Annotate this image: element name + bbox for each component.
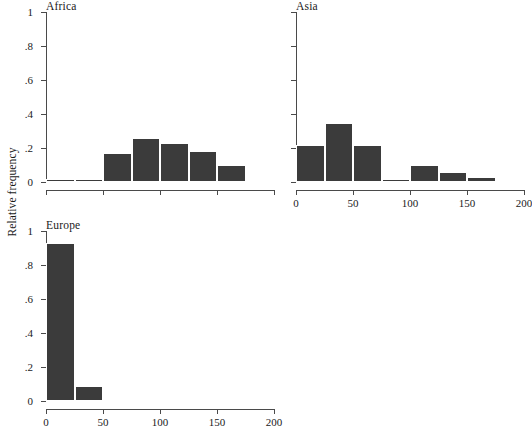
panel-title-africa: Africa xyxy=(46,0,77,12)
bar-asia-4 xyxy=(410,165,439,182)
y-tick-label-africa-0: 0 xyxy=(28,177,34,188)
plot-area-africa: 0.2.4.6.81 xyxy=(46,12,274,182)
plot-area-asia: 050100150200 xyxy=(296,12,524,182)
bar-africa-1 xyxy=(75,179,104,182)
x-tick-asia-2: 100 xyxy=(410,190,411,195)
x-tick-label-europe-3: 150 xyxy=(209,417,226,428)
y-tick-label-africa-2: .4 xyxy=(25,109,33,120)
x-tick-label-asia-3: 150 xyxy=(459,198,476,209)
y-tick-label-europe-1: .2 xyxy=(25,362,33,373)
x-tick-label-europe-1: 50 xyxy=(98,417,109,428)
bar-asia-6 xyxy=(467,177,496,182)
y-tick-asia-3 xyxy=(291,80,296,81)
x-tick-label-asia-1: 50 xyxy=(348,198,359,209)
bar-europe-1 xyxy=(75,386,104,401)
y-tick-label-africa-4: .8 xyxy=(25,41,33,52)
x-tick-africa-4 xyxy=(274,190,275,195)
y-axis-africa xyxy=(46,12,47,182)
y-tick-label-europe-0: 0 xyxy=(28,396,34,407)
y-tick-label-africa-5: 1 xyxy=(28,7,34,18)
bar-africa-2 xyxy=(103,153,132,182)
x-tick-africa-0 xyxy=(46,190,47,195)
y-tick-europe-0: 0 xyxy=(41,401,46,402)
bar-asia-0 xyxy=(296,145,325,182)
x-tick-label-asia-4: 200 xyxy=(516,198,532,209)
bar-africa-3 xyxy=(132,138,161,182)
panel-asia: Asia 050100150200 xyxy=(296,12,524,182)
x-tick-asia-3: 150 xyxy=(467,190,468,195)
bar-africa-0 xyxy=(46,179,75,182)
panel-title-europe: Europe xyxy=(46,219,80,231)
bar-asia-1 xyxy=(325,123,354,183)
y-tick-africa-0: 0 xyxy=(41,182,46,183)
panel-europe: Europe 0.2.4.6.81050100150200 xyxy=(46,231,274,401)
y-tick-asia-4 xyxy=(291,46,296,47)
bar-africa-4 xyxy=(160,143,189,182)
x-tick-label-asia-0: 0 xyxy=(293,198,299,209)
x-tick-asia-1: 50 xyxy=(353,190,354,195)
bar-europe-0 xyxy=(46,243,75,401)
panel-title-asia: Asia xyxy=(296,0,318,12)
bar-asia-3 xyxy=(382,179,411,182)
y-tick-africa-2: .4 xyxy=(41,114,46,115)
x-tick-europe-1: 50 xyxy=(103,409,104,414)
y-tick-label-europe-5: 1 xyxy=(28,226,34,237)
x-tick-europe-4: 200 xyxy=(274,409,275,414)
y-tick-asia-0 xyxy=(291,182,296,183)
x-tick-europe-0: 0 xyxy=(46,409,47,414)
x-tick-label-asia-2: 100 xyxy=(402,198,419,209)
x-tick-label-europe-0: 0 xyxy=(43,417,49,428)
x-tick-asia-0: 0 xyxy=(296,190,297,195)
y-tick-asia-5 xyxy=(291,12,296,13)
y-tick-europe-5: 1 xyxy=(41,231,46,232)
y-axis-label: Relative frequency xyxy=(6,122,18,262)
bar-africa-6 xyxy=(217,165,246,182)
x-tick-europe-2: 100 xyxy=(160,409,161,414)
y-tick-africa-5: 1 xyxy=(41,12,46,13)
plot-area-europe: 0.2.4.6.81050100150200 xyxy=(46,231,274,401)
y-tick-label-europe-3: .6 xyxy=(25,294,33,305)
y-tick-label-europe-4: .8 xyxy=(25,260,33,271)
x-tick-label-europe-2: 100 xyxy=(152,417,169,428)
x-tick-africa-2 xyxy=(160,190,161,195)
panel-africa: Africa 0.2.4.6.81 xyxy=(46,12,274,182)
y-tick-asia-2 xyxy=(291,114,296,115)
y-tick-africa-4: .8 xyxy=(41,46,46,47)
y-tick-africa-3: .6 xyxy=(41,80,46,81)
y-tick-label-europe-2: .4 xyxy=(25,328,33,339)
x-tick-africa-1 xyxy=(103,190,104,195)
y-tick-label-africa-3: .6 xyxy=(25,75,33,86)
bar-asia-5 xyxy=(439,172,468,182)
bar-africa-5 xyxy=(189,151,218,182)
y-tick-label-africa-1: .2 xyxy=(25,143,33,154)
x-tick-africa-3 xyxy=(217,190,218,195)
y-tick-africa-1: .2 xyxy=(41,148,46,149)
x-tick-label-europe-4: 200 xyxy=(266,417,283,428)
bar-asia-2 xyxy=(353,145,382,182)
x-tick-europe-3: 150 xyxy=(217,409,218,414)
x-tick-asia-4: 200 xyxy=(524,190,525,195)
